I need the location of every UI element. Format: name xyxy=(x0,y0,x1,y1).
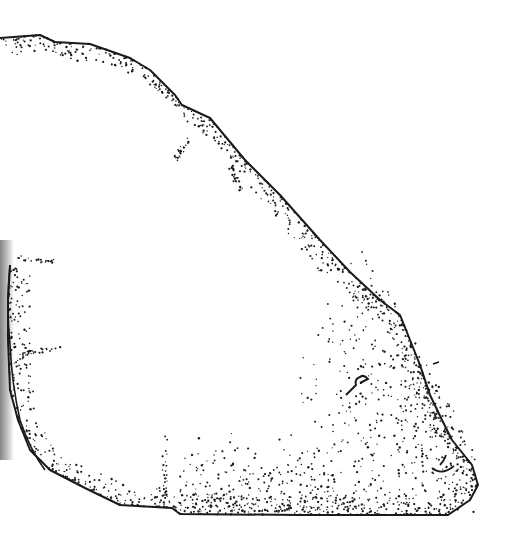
stipple-shading xyxy=(1,35,477,516)
section-outline xyxy=(0,35,478,515)
anatomical-section-drawing xyxy=(0,0,511,555)
